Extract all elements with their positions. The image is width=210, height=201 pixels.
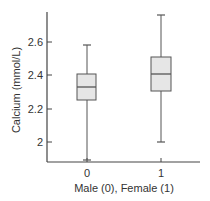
- ytick-label-2.4: 2.4: [28, 69, 43, 81]
- box-male: [77, 45, 96, 160]
- y-ticks: [47, 42, 52, 142]
- y-axis-title: Calcium (mmol/L): [10, 47, 22, 133]
- xtick-label-1: 1: [158, 167, 164, 179]
- ytick-label-2.6: 2.6: [28, 36, 43, 48]
- ytick-label-2: 2: [37, 136, 43, 148]
- x-axis-title: Male (0), Female (1): [74, 182, 174, 194]
- box-female: [151, 15, 171, 142]
- xtick-label-0: 0: [84, 167, 90, 179]
- box-plot: 2.6 2.4 2.2 2 0 1 Male (0), Female (1) C…: [0, 0, 210, 201]
- ytick-label-2.2: 2.2: [28, 103, 43, 115]
